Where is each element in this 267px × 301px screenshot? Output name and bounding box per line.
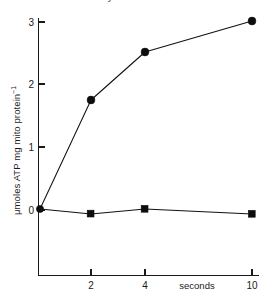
y-axis-label-text: μmoles ATP mg mito protein−1	[10, 86, 22, 215]
chart-plot-area: 3 2 1 0 μmoles ATP mg mito protein−1 2 4…	[0, 0, 267, 301]
x-tick-label-10: 10	[246, 280, 258, 291]
series-atp-synthesis	[36, 17, 256, 212]
x-axis-ticks	[91, 269, 252, 276]
y-axis-label-main: μmoles ATP mg mito protein	[11, 94, 22, 215]
data-point	[141, 48, 149, 56]
y-axis-label: μmoles ATP mg mito protein−1	[10, 86, 22, 215]
data-point	[87, 96, 95, 104]
x-tick-labels: 2 4 10	[88, 280, 258, 291]
y-tick-label-2: 2	[28, 79, 34, 90]
y-tick-label-0: 0	[28, 205, 34, 216]
y-axis-ticks	[39, 22, 46, 210]
data-point	[248, 210, 255, 217]
x-axis-label: seconds	[179, 280, 215, 291]
data-point	[248, 17, 256, 25]
data-point	[141, 205, 148, 212]
series-control	[40, 205, 255, 217]
y-axis-label-superscript: −1	[10, 86, 17, 94]
data-point	[87, 210, 94, 217]
x-tick-label-4: 4	[142, 280, 148, 291]
y-tick-label-1: 1	[28, 142, 34, 153]
y-tick-label-3: 3	[28, 17, 34, 28]
y-tick-labels: 3 2 1 0	[28, 17, 34, 216]
chart-figure: ATP Synthesis in Brain 3 2 1 0 μmoles AT…	[0, 0, 267, 301]
x-tick-label-2: 2	[88, 280, 94, 291]
